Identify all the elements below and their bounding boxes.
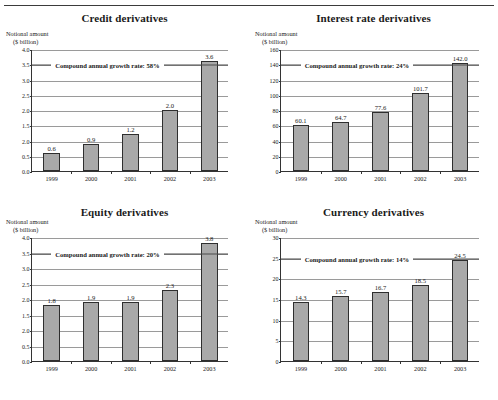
x-tick-mark <box>361 171 362 174</box>
gridline <box>32 111 228 112</box>
page-header-rule <box>4 5 494 6</box>
bar-credit-2002 <box>162 110 179 171</box>
y-tick-label: 20 <box>273 154 279 160</box>
y-tick-label: 15 <box>273 297 279 303</box>
bar-value-label: 0.9 <box>87 136 95 143</box>
x-tick-label: 1999 <box>46 365 58 372</box>
chart-panel-credit: Credit derivatives Notional amount ($ bi… <box>0 8 249 204</box>
y-tick-label: 80 <box>273 108 279 114</box>
y-axis-caption-interest-rate: Notional amount ($ billion) <box>255 30 298 45</box>
y-tick-label: 100 <box>270 93 279 99</box>
y-tick-mark <box>279 300 282 301</box>
y-tick-mark <box>30 50 33 51</box>
y-tick-label: 30 <box>273 235 279 241</box>
bar-equity-2003 <box>201 243 218 361</box>
y-tick-mark <box>279 321 282 322</box>
chart-title-equity: Equity derivatives <box>0 206 249 218</box>
y-tick-label: 2.5 <box>22 282 30 288</box>
y-tick-label: 2.0 <box>22 139 30 145</box>
y-tick-mark <box>279 259 282 260</box>
y-tick-label: 0 <box>276 169 279 175</box>
bar-value-label: 3.8 <box>205 235 213 242</box>
x-tick-mark <box>400 361 401 364</box>
y-tick-mark <box>30 81 33 82</box>
y-tick-mark <box>30 285 33 286</box>
y-tick-label: 0.0 <box>22 359 30 365</box>
x-tick-label: 2002 <box>414 175 426 182</box>
x-tick-label: 2000 <box>335 365 347 372</box>
x-tick-mark <box>190 171 191 174</box>
gridline <box>281 65 479 66</box>
y-tick-mark <box>279 126 282 127</box>
x-tick-mark <box>150 171 151 174</box>
y-tick-mark <box>279 362 282 363</box>
x-tick-label: 2001 <box>374 175 386 182</box>
bar-value-label: 64.7 <box>335 114 347 121</box>
y-axis-caption-line2: ($ billion) <box>6 226 49 234</box>
y-tick-mark <box>30 142 33 143</box>
bar-value-label: 16.7 <box>375 284 387 291</box>
y-tick-label: 3.5 <box>22 62 30 68</box>
chart-grid: Credit derivatives Notional amount ($ bi… <box>0 8 498 400</box>
x-tick-mark <box>71 171 72 174</box>
y-tick-mark <box>30 111 33 112</box>
plot-area-equity: 0.00.52.01.52.02.53.03.54.01.819991.9200… <box>31 238 228 362</box>
y-axis-caption-line2: ($ billion) <box>255 38 298 46</box>
x-tick-label: 2002 <box>164 175 176 182</box>
bar-value-label: 60.1 <box>295 117 307 124</box>
y-tick-label: 4.0 <box>22 235 30 241</box>
bar-interest-rate-2002 <box>412 93 429 171</box>
y-tick-label: 3.0 <box>22 266 30 272</box>
y-tick-mark <box>279 65 282 66</box>
bar-value-label: 2.3 <box>166 282 174 289</box>
y-tick-mark <box>30 269 33 270</box>
x-tick-label: 1999 <box>295 175 307 182</box>
bar-equity-1999 <box>43 305 60 361</box>
y-tick-mark <box>30 331 33 332</box>
x-tick-mark <box>71 361 72 364</box>
gridline <box>281 96 479 97</box>
x-tick-label: 2003 <box>454 175 466 182</box>
bar-value-label: 101.7 <box>413 85 428 92</box>
gridline <box>32 254 228 255</box>
y-axis-caption-line2: ($ billion) <box>255 226 298 234</box>
bar-value-label: 1.8 <box>48 297 56 304</box>
gridline <box>281 279 479 280</box>
x-tick-label: 2003 <box>203 175 215 182</box>
x-tick-mark <box>440 171 441 174</box>
bar-value-label: 2.0 <box>166 102 174 109</box>
chart-panel-interest-rate: Interest rate derivatives Notional amoun… <box>249 8 498 204</box>
bar-interest-rate-2001 <box>372 112 389 171</box>
y-tick-label: 40 <box>273 139 279 145</box>
y-tick-mark <box>279 111 282 112</box>
bar-equity-2000 <box>83 302 100 361</box>
y-tick-mark <box>30 96 33 97</box>
y-tick-mark <box>30 300 33 301</box>
gridline <box>32 96 228 97</box>
bar-value-label: 142.0 <box>453 55 468 62</box>
y-tick-mark <box>30 362 33 363</box>
y-tick-label: 0.5 <box>22 154 30 160</box>
x-tick-mark <box>111 171 112 174</box>
y-tick-label: 3.0 <box>22 78 30 84</box>
x-tick-mark <box>190 361 191 364</box>
y-tick-mark <box>279 96 282 97</box>
x-tick-label: 2002 <box>164 365 176 372</box>
y-tick-mark <box>279 142 282 143</box>
bar-equity-2002 <box>162 290 179 361</box>
bar-value-label: 15.7 <box>335 288 347 295</box>
x-tick-label: 1999 <box>295 365 307 372</box>
chart-panel-currency: Currency derivatives Notional amount ($ … <box>249 204 498 400</box>
y-tick-label: 2.5 <box>22 93 30 99</box>
y-tick-mark <box>30 238 33 239</box>
y-tick-label: 120 <box>270 78 279 84</box>
bar-credit-2000 <box>83 144 100 171</box>
y-axis-caption-equity: Notional amount ($ billion) <box>6 218 49 233</box>
x-tick-label: 2001 <box>124 175 136 182</box>
x-tick-label: 2002 <box>414 365 426 372</box>
y-tick-label: 2.0 <box>22 108 30 114</box>
bar-value-label: 1.2 <box>126 126 134 133</box>
y-tick-label: 1.5 <box>22 313 30 319</box>
bar-value-label: 3.6 <box>205 53 213 60</box>
plot-area-currency: 05101520253014.3199915.7200016.7200118.5… <box>280 238 479 362</box>
